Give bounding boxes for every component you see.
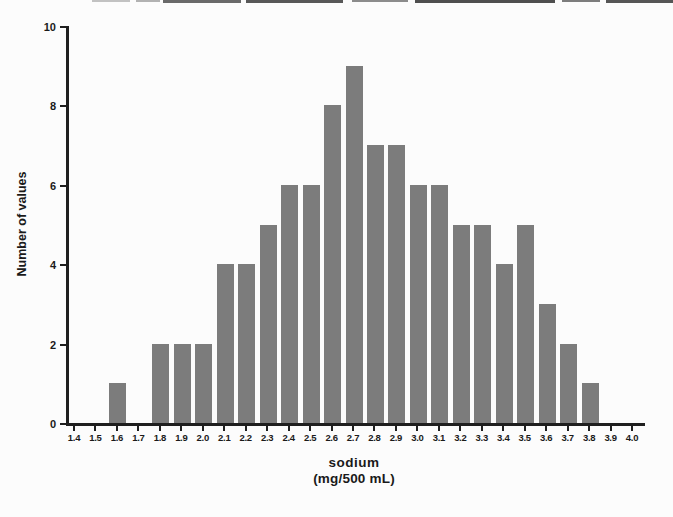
scanned-chart-page: 0246810 1.41.51.61.71.81.92.02.12.22.32.… (0, 0, 673, 517)
histogram-bar (560, 344, 577, 423)
histogram-bar (539, 304, 556, 423)
histogram-bar (195, 344, 212, 423)
histogram-bar (238, 264, 255, 423)
x-axis-tick (373, 426, 375, 431)
histogram-bar (152, 344, 169, 423)
histogram-bar (582, 383, 599, 423)
x-axis-tick (288, 426, 290, 431)
y-tick-label: 0 (22, 418, 56, 430)
histogram-bar (281, 185, 298, 423)
histogram-bar (346, 66, 363, 423)
x-axis-tick (567, 426, 569, 431)
x-axis-tick (524, 426, 526, 431)
x-axis-tick (137, 426, 139, 431)
histogram-bar (410, 185, 427, 423)
histogram-bar (431, 185, 448, 423)
x-axis-tick (481, 426, 483, 431)
histogram-bar (174, 344, 191, 423)
x-axis-tick (309, 426, 311, 431)
histogram-bar (388, 145, 405, 423)
histogram-bar (453, 225, 470, 424)
histogram-bar (217, 264, 234, 423)
y-tick-label: 2 (22, 339, 56, 351)
histogram-bar (474, 225, 491, 424)
x-axis-tick (223, 426, 225, 431)
histogram-bar (303, 185, 320, 423)
y-axis-title: Number of values (15, 144, 29, 304)
x-axis-tick (438, 426, 440, 431)
histogram-bar (496, 264, 513, 423)
x-axis-unit: (mg/500 mL) (254, 471, 454, 486)
histogram-bar (260, 225, 277, 424)
x-axis-tick (545, 426, 547, 431)
x-axis-tick (502, 426, 504, 431)
x-axis-tick (266, 426, 268, 431)
y-axis (66, 26, 69, 426)
histogram-chart: 0246810 1.41.51.61.71.81.92.02.12.22.32.… (0, 0, 673, 517)
x-axis-tick (180, 426, 182, 431)
x-axis-tick (631, 426, 633, 431)
histogram-bar (324, 105, 341, 423)
x-axis-tick (116, 426, 118, 431)
histogram-bar (367, 145, 384, 423)
x-axis-tick (459, 426, 461, 431)
x-axis-title: sodium (254, 455, 454, 470)
y-tick-label: 10 (22, 21, 56, 33)
x-axis-tick (588, 426, 590, 431)
histogram-bar (109, 383, 126, 423)
x-axis-tick (159, 426, 161, 431)
x-axis-tick (202, 426, 204, 431)
x-axis-tick (331, 426, 333, 431)
x-axis (66, 423, 645, 426)
x-axis-tick (73, 426, 75, 431)
x-axis-tick (245, 426, 247, 431)
x-axis-tick (610, 426, 612, 431)
y-tick-label: 8 (22, 100, 56, 112)
x-tick-label: 4.0 (619, 432, 645, 443)
x-axis-tick (395, 426, 397, 431)
x-axis-tick (352, 426, 354, 431)
histogram-bar (517, 225, 534, 424)
x-axis-tick (416, 426, 418, 431)
x-axis-tick (94, 426, 96, 431)
